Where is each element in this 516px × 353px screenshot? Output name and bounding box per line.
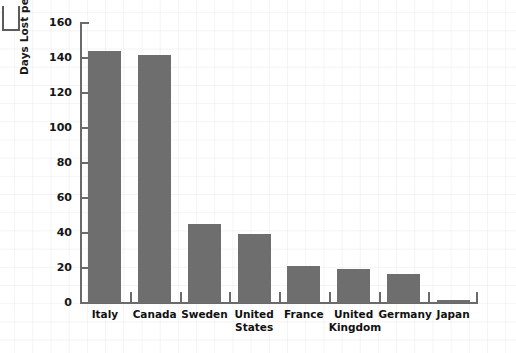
y-axis-tick-label: 100 [28, 121, 72, 134]
x-axis-label: United States [229, 308, 279, 333]
y-axis-tick-label-wrap: 40 [26, 233, 72, 234]
y-axis-tick-label: 80 [28, 156, 72, 169]
bar-chart: Days Lost per Thousand Workers per Year … [0, 0, 516, 353]
x-axis-label: Sweden [180, 308, 230, 321]
bar [138, 55, 171, 304]
y-axis-tick-label: 40 [28, 226, 72, 239]
y-axis-tick-label-wrap: 120 [26, 93, 72, 94]
y-axis-tick-label: 140 [28, 51, 72, 64]
y-axis-tick-label-wrap: 100 [26, 128, 72, 129]
x-axis-label: France [279, 308, 329, 321]
y-axis-tick-label: 20 [28, 261, 72, 274]
bar [337, 269, 370, 303]
y-axis-tick-label: 120 [28, 86, 72, 99]
bar [188, 224, 221, 303]
y-axis-tick-label-wrap: 0 [26, 303, 72, 304]
bar [238, 234, 271, 303]
y-axis-tick-label-wrap: 160 [26, 23, 72, 24]
x-axis-label: United Kingdom [329, 308, 379, 333]
y-axis-tick-label: 60 [28, 191, 72, 204]
bar [387, 274, 420, 303]
y-axis-tick-label-wrap: 60 [26, 198, 72, 199]
y-axis-tick-label-wrap: 140 [26, 58, 72, 59]
bar [287, 266, 320, 303]
x-axis-label: Germany [379, 308, 429, 321]
y-axis-tick-label: 160 [28, 16, 72, 29]
x-axis-label: Italy [80, 308, 130, 321]
bar [437, 300, 470, 304]
bar [88, 51, 121, 303]
y-axis-tick-label-wrap: 20 [26, 268, 72, 269]
y-axis-tick-label: 0 [28, 296, 72, 309]
x-axis-label: Japan [428, 308, 478, 321]
x-axis-label: Canada [130, 308, 180, 321]
bars-layer [80, 23, 478, 303]
y-axis-tick-label-wrap: 80 [26, 163, 72, 164]
chart-screenshot: Days Lost per Thousand Workers per Year … [0, 0, 516, 353]
